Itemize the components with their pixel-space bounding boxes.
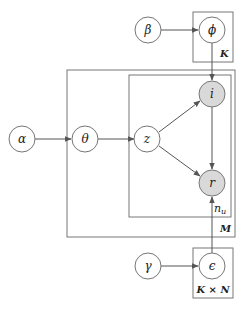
node-theta: θ [72,126,98,152]
node-gamma: γ [135,253,161,279]
svg-text:β: β [144,23,152,37]
node-z: z [134,126,160,152]
svg-text:γ: γ [144,259,152,273]
graphical-model-diagram: K M nu K × N β ϕ α θ [0,0,244,309]
svg-text:i: i [210,87,214,101]
node-epsilon: ϵ [199,253,225,279]
node-alpha: α [9,126,35,152]
svg-text:ϵ: ϵ [209,259,216,273]
plate-kxn-label: K × N [195,284,230,295]
edge-z-i [159,101,200,132]
edges [35,30,212,266]
node-phi: ϕ [199,17,225,43]
node-beta: β [135,17,161,43]
node-r-observed: r [199,170,225,196]
svg-text:θ: θ [81,132,89,146]
svg-text:ϕ: ϕ [208,23,216,37]
node-i-observed: i [199,81,225,107]
plate-m-label: M [219,223,232,234]
plate-k-label: K [219,48,230,59]
svg-text:α: α [18,132,26,146]
plate-nu-label: nu [214,202,226,216]
svg-text:z: z [143,132,151,146]
edge-z-r [159,146,200,176]
